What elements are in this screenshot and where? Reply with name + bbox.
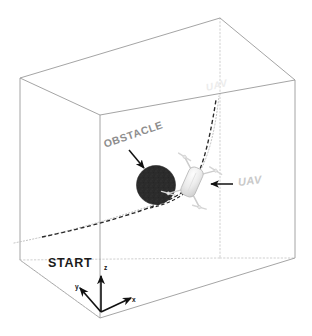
axis-label-y: y <box>75 283 79 290</box>
start-label: START <box>48 256 92 270</box>
axis-label-z: z <box>104 264 107 271</box>
axis-triad <box>80 276 131 312</box>
obstacle-arrow <box>129 150 144 168</box>
obstacle-sphere <box>137 166 176 205</box>
trajectory-projection <box>14 96 219 243</box>
uav-trajectory-scene <box>0 0 312 336</box>
axis-label-x: x <box>132 296 136 303</box>
bounding-box-hidden-edges <box>20 18 295 260</box>
